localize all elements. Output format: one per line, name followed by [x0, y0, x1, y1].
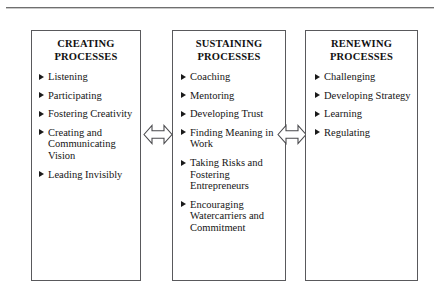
- box-title-line1: RENEWING: [310, 38, 413, 51]
- item-list-renewing: Challenging Developing Strategy Learning…: [306, 71, 417, 138]
- double-headed-arrow-icon: [143, 121, 173, 148]
- list-item: Listening: [39, 71, 137, 83]
- list-item-label: Regulating: [324, 127, 370, 138]
- box-title-renewing: RENEWING PROCESSES: [310, 38, 413, 63]
- box-title-line2: PROCESSES: [177, 51, 281, 64]
- box-title-sustaining: SUSTAINING PROCESSES: [177, 38, 281, 63]
- list-item: Encouraging Watercarriers and Commitment: [181, 199, 282, 234]
- list-item-label: Creating and Communicating Vision: [48, 127, 116, 161]
- arrow-bullet-icon: [181, 111, 186, 117]
- item-list-sustaining: Coaching Mentoring Developing Trust Find…: [173, 71, 285, 234]
- list-item-label: Developing Strategy: [324, 90, 411, 101]
- connector-creating-to-sustaining: [143, 121, 173, 148]
- list-item-label: Leading Invisibly: [48, 169, 122, 180]
- arrow-bullet-icon: [315, 74, 320, 80]
- list-item-label: Finding Meaning in Work: [190, 127, 273, 150]
- list-item: Mentoring: [181, 90, 282, 102]
- list-item: Finding Meaning in Work: [181, 127, 282, 150]
- list-item-label: Developing Trust: [190, 108, 263, 119]
- arrow-bullet-icon: [181, 201, 186, 207]
- box-title-line1: CREATING: [36, 38, 136, 51]
- arrow-bullet-icon: [39, 92, 44, 98]
- arrow-bullet-icon: [39, 171, 44, 177]
- list-item: Leading Invisibly: [39, 169, 137, 181]
- process-box-sustaining: SUSTAINING PROCESSES Coaching Mentoring …: [172, 30, 286, 281]
- list-item: Creating and Communicating Vision: [39, 127, 137, 162]
- list-item-label: Taking Risks and Fostering Entrepreneurs: [190, 157, 263, 191]
- box-title-line2: PROCESSES: [310, 51, 413, 64]
- arrow-bullet-icon: [39, 129, 44, 135]
- arrow-bullet-icon: [315, 111, 320, 117]
- arrow-bullet-icon: [181, 92, 186, 98]
- list-item: Taking Risks and Fostering Entrepreneurs: [181, 157, 282, 192]
- arrow-bullet-icon: [39, 111, 44, 117]
- arrow-bullet-icon: [39, 74, 44, 80]
- list-item-label: Mentoring: [190, 90, 234, 101]
- double-headed-arrow-icon: [277, 121, 307, 148]
- list-item: Developing Strategy: [315, 90, 414, 102]
- process-box-renewing: RENEWING PROCESSES Challenging Developin…: [305, 30, 418, 281]
- list-item: Fostering Creativity: [39, 108, 137, 120]
- list-item: Challenging: [315, 71, 414, 83]
- arrow-bullet-icon: [181, 74, 186, 80]
- list-item-label: Listening: [48, 71, 88, 82]
- list-item-label: Learning: [324, 108, 362, 119]
- item-list-creating: Listening Participating Fostering Creati…: [32, 71, 140, 180]
- box-title-line2: PROCESSES: [36, 51, 136, 64]
- list-item-label: Encouraging Watercarriers and Commitment: [190, 199, 264, 233]
- list-item: Regulating: [315, 127, 414, 139]
- process-box-creating: CREATING PROCESSES Listening Participati…: [31, 30, 141, 281]
- list-item-label: Participating: [48, 90, 102, 101]
- connector-sustaining-to-renewing: [277, 121, 307, 148]
- list-item: Developing Trust: [181, 108, 282, 120]
- list-item-label: Coaching: [190, 71, 230, 82]
- arrow-bullet-icon: [181, 129, 186, 135]
- list-item: Coaching: [181, 71, 282, 83]
- list-item: Participating: [39, 90, 137, 102]
- arrow-bullet-icon: [315, 129, 320, 135]
- list-item: Learning: [315, 108, 414, 120]
- arrow-bullet-icon: [181, 160, 186, 166]
- diagram-canvas: CREATING PROCESSES Listening Participati…: [0, 0, 438, 299]
- box-title-line1: SUSTAINING: [177, 38, 281, 51]
- box-title-creating: CREATING PROCESSES: [36, 38, 136, 63]
- list-item-label: Challenging: [324, 71, 375, 82]
- arrow-bullet-icon: [315, 92, 320, 98]
- header-rule: [6, 7, 434, 8]
- list-item-label: Fostering Creativity: [48, 108, 132, 119]
